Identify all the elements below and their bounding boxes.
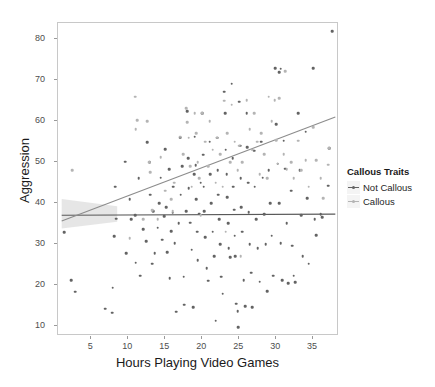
- data-point: [224, 112, 227, 115]
- data-point: [225, 230, 228, 233]
- data-point: [173, 181, 176, 184]
- data-point: [322, 197, 325, 200]
- y-tick-mark: [54, 325, 57, 326]
- data-point: [158, 202, 161, 205]
- data-point: [315, 159, 318, 162]
- data-point: [231, 157, 234, 160]
- data-point: [146, 141, 149, 144]
- data-point: [250, 271, 253, 274]
- legend-item-callous[interactable]: Callous: [347, 194, 433, 208]
- data-point: [306, 197, 309, 200]
- data-point: [134, 95, 137, 98]
- fit-line-callous: [62, 117, 336, 221]
- data-point: [113, 235, 116, 238]
- data-point: [248, 243, 251, 246]
- data-point: [210, 202, 213, 205]
- data-point: [194, 164, 197, 167]
- x-tick-mark: [90, 336, 91, 339]
- data-point: [238, 144, 241, 147]
- data-point: [168, 277, 171, 280]
- x-tick-label: 20: [196, 341, 206, 351]
- data-point: [307, 185, 310, 188]
- data-point: [313, 218, 316, 221]
- data-point: [331, 30, 334, 33]
- data-point: [63, 231, 66, 234]
- data-point: [134, 128, 137, 131]
- data-point: [159, 176, 162, 179]
- data-point: [282, 153, 285, 156]
- data-point: [203, 210, 206, 213]
- data-point: [312, 126, 315, 129]
- data-point: [278, 71, 281, 74]
- data-point: [241, 230, 244, 233]
- data-point: [211, 149, 214, 152]
- y-tick-mark: [54, 38, 57, 39]
- data-point: [291, 244, 294, 247]
- data-point: [239, 177, 242, 180]
- data-point: [264, 243, 267, 246]
- data-point: [251, 149, 254, 152]
- data-point: [70, 279, 73, 282]
- data-point: [279, 242, 282, 245]
- data-point: [192, 306, 195, 309]
- data-point: [278, 202, 281, 205]
- data-point: [259, 173, 262, 176]
- data-point: [71, 169, 74, 172]
- data-point: [166, 251, 169, 254]
- data-point: [179, 135, 182, 138]
- data-point: [211, 230, 214, 233]
- data-point: [307, 262, 310, 265]
- data-point: [294, 281, 297, 284]
- data-point: [315, 234, 318, 237]
- data-point: [287, 282, 290, 285]
- data-point: [214, 181, 217, 184]
- data-point: [233, 234, 236, 237]
- y-tick-mark: [54, 161, 57, 162]
- data-point: [217, 194, 220, 197]
- plot-panel: [57, 22, 338, 335]
- data-point: [146, 120, 149, 123]
- data-point: [214, 320, 217, 323]
- data-point: [270, 120, 273, 123]
- data-point: [205, 267, 208, 270]
- data-point: [165, 206, 168, 209]
- y-tick-mark: [54, 202, 57, 203]
- data-point: [246, 146, 249, 149]
- data-point: [263, 213, 266, 216]
- data-point: [236, 310, 239, 313]
- data-point: [134, 261, 137, 264]
- data-point: [230, 104, 233, 107]
- data-point: [104, 307, 107, 310]
- data-point: [327, 185, 330, 188]
- data-point: [149, 194, 152, 197]
- data-point: [284, 70, 287, 73]
- data-point: [219, 243, 222, 246]
- x-tick-mark: [275, 336, 276, 339]
- legend-item-not-callous[interactable]: Not Callous: [347, 180, 433, 194]
- x-tick-label: 30: [270, 341, 280, 351]
- data-point: [114, 185, 117, 188]
- data-point: [267, 95, 270, 98]
- data-point: [134, 214, 137, 217]
- x-tick-label: 10: [122, 341, 132, 351]
- data-point: [275, 139, 278, 142]
- data-point: [186, 121, 189, 124]
- data-point: [168, 168, 171, 171]
- data-point: [182, 275, 185, 278]
- data-point: [181, 165, 184, 168]
- data-point: [223, 90, 226, 93]
- data-point: [164, 189, 167, 192]
- data-point: [255, 218, 258, 221]
- data-point: [145, 240, 148, 243]
- data-point: [262, 176, 265, 179]
- data-point: [154, 252, 157, 255]
- data-point: [128, 198, 131, 201]
- data-point: [195, 198, 198, 201]
- data-point: [157, 218, 160, 221]
- data-point: [248, 128, 251, 131]
- data-point: [244, 305, 247, 308]
- data-point: [242, 279, 245, 282]
- data-point: [234, 255, 237, 258]
- data-point: [270, 234, 273, 237]
- data-point: [198, 177, 201, 180]
